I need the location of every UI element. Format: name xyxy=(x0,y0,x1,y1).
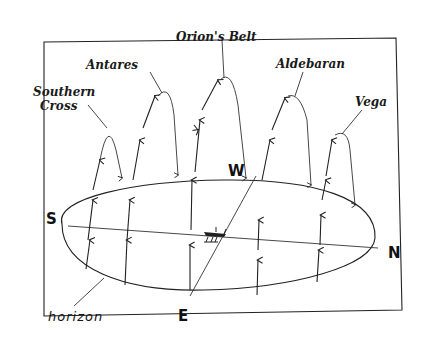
label-southern-cross-line1: Southern xyxy=(33,85,95,99)
direction-east: E xyxy=(178,307,188,325)
direction-west: W xyxy=(228,162,245,180)
label-antares: Antares xyxy=(85,58,138,72)
label-southern-cross-line2: Cross xyxy=(40,99,78,113)
direction-north: N xyxy=(388,244,401,262)
label-orions-belt: Orion's Belt xyxy=(176,30,257,44)
diagram-canvas: Southern Cross Antares Orion's Belt Alde… xyxy=(0,0,442,353)
label-aldebaran: Aldebaran xyxy=(275,57,345,71)
star-path-antares xyxy=(125,72,178,285)
horizon-pointer xyxy=(74,278,104,306)
north-south-line xyxy=(68,226,378,248)
label-vega: Vega xyxy=(355,95,387,109)
direction-south: S xyxy=(46,210,57,228)
star-path-southern-cross xyxy=(86,105,122,269)
horizon-label: horizon xyxy=(48,309,103,324)
ship-icon xyxy=(204,227,226,242)
star-path-aldebaran xyxy=(257,72,311,295)
